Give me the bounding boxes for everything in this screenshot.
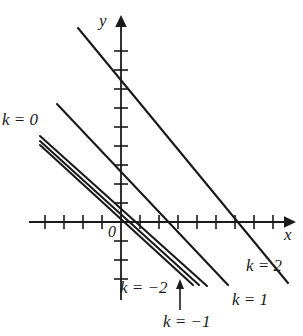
line-label-k-minus-2: k = −2	[120, 279, 168, 296]
line-k-1	[57, 104, 228, 285]
k-minus-1-pointer-head	[176, 279, 184, 289]
k-minus-1-pointer	[176, 279, 184, 310]
origin-label: 0	[108, 224, 116, 240]
y-axis-arrowhead	[115, 15, 127, 27]
math-figure: y x 0 k = 0 k = 2 k = 1 k = −2 k = −1	[0, 0, 303, 336]
x-axis-label: x	[284, 226, 292, 243]
y-axis-label: y	[99, 12, 107, 29]
line-family	[40, 28, 288, 286]
line-label-k-minus-1: k = −1	[163, 313, 211, 330]
line-k-2	[78, 28, 288, 283]
line-label-k-0: k = 0	[2, 111, 38, 128]
line-k-0	[40, 136, 207, 286]
line-label-k-1: k = 1	[232, 291, 268, 308]
line-k-minus-1	[40, 141, 199, 285]
line-label-k-2: k = 2	[246, 257, 282, 274]
